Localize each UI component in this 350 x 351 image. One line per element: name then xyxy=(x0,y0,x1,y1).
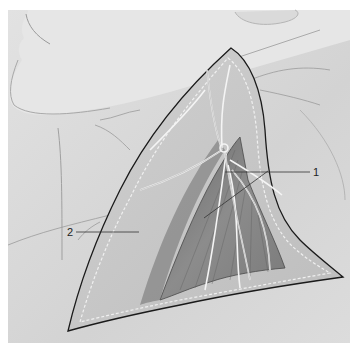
label-1: 1 xyxy=(313,166,319,178)
neck-anatomy-illustration: 1 2 xyxy=(0,0,350,351)
label-2: 2 xyxy=(67,226,73,238)
